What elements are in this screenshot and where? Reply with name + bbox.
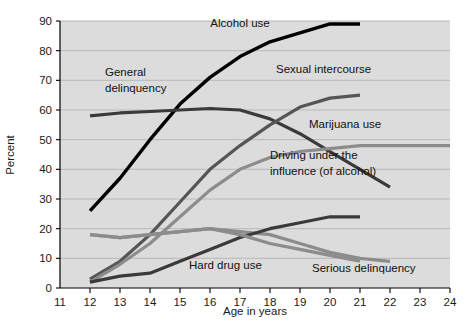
- series-annotation: Alcohol use: [210, 17, 269, 29]
- x-tick-label: 20: [324, 296, 337, 308]
- y-tick-label: 30: [39, 193, 52, 205]
- y-tick-label: 0: [46, 282, 52, 294]
- plot-area-background: [60, 21, 450, 288]
- y-tick-label: 40: [39, 163, 52, 175]
- x-tick-label: 24: [444, 296, 457, 308]
- y-tick-label: 90: [39, 15, 52, 27]
- x-tick-label: 15: [174, 296, 187, 308]
- y-tick-label: 10: [39, 252, 52, 264]
- series-annotation: delinquency: [105, 82, 167, 94]
- series-annotation: Marijuana use: [309, 118, 381, 130]
- series-annotation: Sexual intercourse: [276, 63, 371, 75]
- x-tick-label: 23: [414, 296, 427, 308]
- x-tick-label: 12: [84, 296, 97, 308]
- y-tick-label: 20: [39, 223, 52, 235]
- series-annotation: General: [105, 66, 146, 78]
- line-chart-figure: 0102030405060708090 11121314151617181920…: [0, 0, 473, 322]
- x-tick-label: 13: [114, 296, 127, 308]
- x-tick-label: 22: [384, 296, 397, 308]
- x-tick-label: 19: [294, 296, 307, 308]
- y-axis-title: Percent: [4, 134, 16, 174]
- x-tick-label: 16: [204, 296, 217, 308]
- chart-canvas: 0102030405060708090 11121314151617181920…: [0, 0, 473, 322]
- series-annotation: Hard drug use: [189, 259, 262, 271]
- x-tick-label: 14: [144, 296, 157, 308]
- x-axis-title: Age in years: [223, 305, 287, 317]
- x-tick-label: 11: [54, 296, 66, 308]
- x-tick-label: 21: [354, 296, 367, 308]
- y-tick-label: 80: [39, 45, 52, 57]
- y-tick-label: 60: [39, 104, 52, 116]
- series-annotation: Driving under the: [270, 149, 358, 161]
- series-annotation: Serious delinquency: [312, 262, 416, 274]
- y-tick-label: 70: [39, 74, 52, 86]
- y-tick-label: 50: [39, 134, 52, 146]
- series-annotation: influence (of alcohol): [270, 165, 376, 177]
